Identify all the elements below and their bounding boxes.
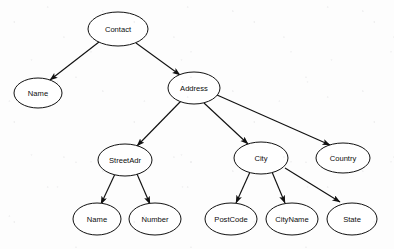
node-postcode[interactable]: PostCode [205,203,257,235]
edges-layer [50,42,340,204]
node-label-address: Address [180,84,208,93]
edge-contact-name1 [50,42,99,80]
node-address[interactable]: Address [168,72,220,104]
nodes-layer: ContactNameAddressStreetAdrCityCountryNa… [14,12,377,235]
node-label-streetadr: StreetAdr [109,156,142,165]
diagram-canvas: ContactNameAddressStreetAdrCityCountryNa… [0,0,394,249]
node-label-cityname: CityName [275,215,308,224]
node-label-contact: Contact [105,25,132,34]
node-label-name2: Name [87,215,107,224]
node-name2[interactable]: Name [73,203,121,235]
node-label-state: State [343,215,361,224]
edge-city-postcode [236,172,250,203]
node-number[interactable]: Number [129,203,181,235]
node-cityname[interactable]: CityName [266,203,318,235]
node-contact[interactable]: Contact [88,12,148,46]
node-label-country: Country [330,154,357,163]
tree-diagram: ContactNameAddressStreetAdrCityCountryNa… [0,0,394,249]
edge-city-state [285,168,340,202]
edge-street-number [137,174,150,204]
node-country[interactable]: Country [316,143,370,173]
node-city[interactable]: City [234,142,288,174]
edge-address-city [204,103,248,144]
edge-address-street [137,101,181,146]
edge-address-country [217,95,330,145]
node-label-name1: Name [28,89,48,98]
edge-contact-address [136,43,180,75]
edge-street-name2 [101,174,115,204]
node-state[interactable]: State [327,203,377,235]
node-name1[interactable]: Name [14,78,62,108]
node-label-number: Number [141,215,168,224]
node-label-city: City [254,154,267,163]
node-label-postcode: PostCode [214,215,247,224]
edge-city-cityname [272,172,285,203]
node-streetadr[interactable]: StreetAdr [98,144,152,176]
